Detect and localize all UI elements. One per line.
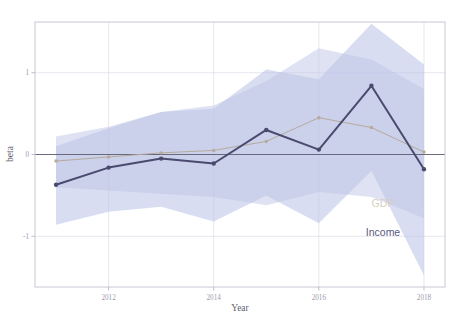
x-tick-label-2016: 2016: [312, 294, 327, 302]
data-point-income-2017: [369, 84, 373, 88]
data-point-income-2012: [106, 165, 110, 169]
data-point-gdp-2014: [212, 149, 215, 152]
data-point-gdp-2017: [370, 126, 373, 129]
x-tick-label-2012: 2012: [101, 294, 116, 302]
data-point-gdp-2012: [107, 155, 110, 158]
x-axis-title: Year: [231, 303, 249, 313]
data-point-gdp-2016: [317, 116, 320, 119]
data-point-gdp-2013: [159, 151, 162, 154]
beta-over-time-line-chart: 2012201420162018-101 Year beta GDPIncome: [0, 0, 464, 323]
data-point-gdp-2015: [265, 140, 268, 143]
data-point-income-2015: [264, 128, 268, 132]
legend-label-income: Income: [366, 226, 401, 238]
legend-label-gdp: GDP: [372, 197, 395, 209]
data-point-income-2011: [54, 183, 58, 187]
y-axis-title: beta: [5, 145, 15, 162]
data-point-income-2018: [422, 167, 426, 171]
data-point-gdp-2018: [422, 150, 425, 153]
x-tick-label-2014: 2014: [207, 294, 222, 302]
y-tick-label--1: -1: [23, 233, 29, 241]
y-tick-label-0: 0: [25, 151, 29, 159]
y-tick-label-1: 1: [25, 69, 29, 77]
chart-figure: 2012201420162018-101 Year beta GDPIncome: [0, 0, 464, 323]
data-point-gdp-2011: [54, 159, 57, 162]
data-point-income-2014: [212, 161, 216, 165]
data-point-income-2016: [317, 147, 321, 151]
x-tick-label-2018: 2018: [417, 294, 432, 302]
data-point-income-2013: [159, 156, 163, 160]
